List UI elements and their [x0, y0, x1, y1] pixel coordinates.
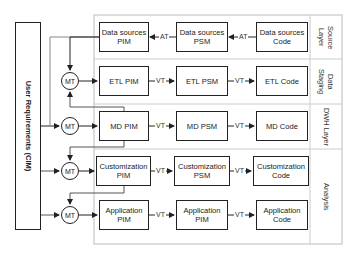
user-requirements-cim-box: User Requirements (CIM)	[15, 22, 41, 230]
vt-label: VT	[155, 211, 166, 219]
at-label-2: AT	[238, 33, 248, 41]
at-label-1: AT	[159, 33, 169, 41]
mt-node-md: MT	[61, 117, 79, 135]
etl-code-box: ETL Code	[256, 66, 308, 96]
vt-label: VT	[155, 167, 166, 175]
md-psm-box: MD PSM	[176, 111, 228, 141]
data-sources-psm-box: Data sources PSM	[176, 22, 228, 52]
md-pim-box: MD PIM	[99, 111, 149, 141]
vt-label: VT	[234, 167, 245, 175]
application-psm-box: Application PIM	[176, 200, 228, 230]
application-code-box: Application Code	[256, 200, 308, 230]
layer-label-analysis: Analysis	[312, 151, 340, 243]
customization-psm-box: Customization PSM	[174, 156, 230, 186]
vt-label: VT	[155, 77, 166, 85]
cim-label: User Requirements (CIM)	[24, 81, 33, 172]
mt-node-application: MT	[61, 206, 79, 224]
customization-pim-box: Customization PIM	[96, 156, 151, 186]
layer-label-source: Source Layer	[312, 17, 340, 58]
data-sources-code-box: Data sources Code	[256, 22, 308, 52]
vt-label: VT	[234, 77, 245, 85]
vt-label: VT	[155, 122, 166, 130]
etl-psm-box: ETL PSM	[176, 66, 228, 96]
etl-pim-box: ETL PIM	[99, 66, 149, 96]
layer-label-dwh: DWH Layer	[312, 106, 340, 148]
layer-label-staging: Data Staging	[312, 61, 340, 103]
mt-node-etl: MT	[61, 72, 79, 90]
mt-node-customization: MT	[61, 162, 79, 180]
vt-label: VT	[234, 211, 245, 219]
mda-dwh-diagram: User Requirements (CIM) Data sources PIM…	[0, 0, 355, 257]
data-sources-pim-box: Data sources PIM	[99, 22, 149, 52]
application-pim-box: Application PIM	[99, 200, 149, 230]
customization-code-box: Customization Code	[253, 156, 309, 186]
vt-label: VT	[234, 122, 245, 130]
md-code-box: MD Code	[256, 111, 308, 141]
